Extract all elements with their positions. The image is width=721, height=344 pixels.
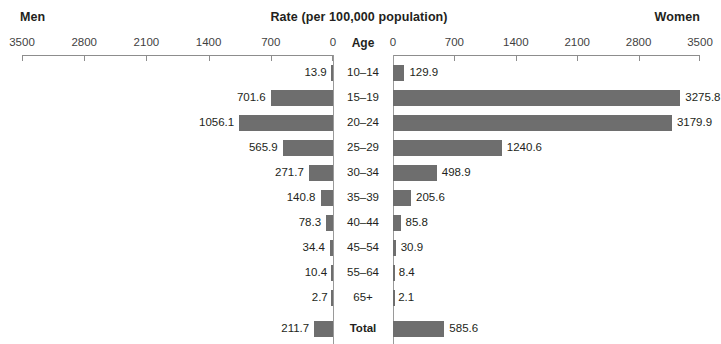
- chart-row-total: 211.7Total585.6: [0, 317, 718, 344]
- right-tick-700: 700: [445, 36, 464, 48]
- age-group-label: 65+: [336, 289, 390, 305]
- bar-men: [283, 140, 333, 156]
- chart-row: 34.445–5430.9: [0, 236, 718, 261]
- chart-row: 2.765+2.1: [0, 286, 718, 311]
- age-group-label: 25–29: [336, 139, 390, 155]
- value-label-men: 701.6: [237, 89, 266, 105]
- chart-row: 701.615–193275.8: [0, 86, 718, 111]
- value-label-women: 3179.9: [677, 114, 712, 130]
- value-label-men: 565.9: [249, 139, 278, 155]
- value-label-men: 1056.1: [199, 114, 234, 130]
- bar-women: [393, 115, 672, 131]
- bar-women: [393, 165, 437, 181]
- value-label-women: 3275.8: [685, 89, 720, 105]
- bar-women: [393, 265, 395, 281]
- value-label-women: 8.4: [399, 264, 415, 280]
- chart-row: 140.835–39205.6: [0, 186, 718, 211]
- value-label-women: 205.6: [416, 189, 445, 205]
- bar-women: [393, 321, 444, 337]
- bar-men: [330, 240, 333, 256]
- bar-men: [239, 115, 333, 131]
- value-label-women: 1240.6: [507, 139, 542, 155]
- value-label-women: 585.6: [449, 320, 478, 336]
- value-label-men: 140.8: [287, 189, 316, 205]
- bar-men: [331, 265, 333, 281]
- value-label-women: 2.1: [398, 289, 414, 305]
- age-group-label: 40–44: [336, 214, 390, 230]
- bar-women: [393, 240, 396, 256]
- value-label-men: 13.9: [304, 64, 326, 80]
- value-label-men: 78.3: [299, 214, 321, 230]
- chart-row: 10.455–648.4: [0, 261, 718, 286]
- value-label-women: 129.9: [409, 64, 438, 80]
- age-group-label: 35–39: [336, 189, 390, 205]
- value-label-women: 498.9: [442, 164, 471, 180]
- value-label-women: 85.8: [406, 214, 428, 230]
- bar-women: [393, 140, 502, 156]
- chart-row: 13.910–14129.9: [0, 61, 718, 86]
- right-tick-3500: 3500: [687, 36, 713, 48]
- chart-row: 78.340–4485.8: [0, 211, 718, 236]
- right-tick-2100: 2100: [564, 36, 590, 48]
- bar-men: [321, 190, 334, 206]
- chart-row: 1056.120–243179.9: [0, 111, 718, 136]
- bar-women: [393, 290, 395, 306]
- bar-women: [393, 90, 680, 106]
- right-tick-1400: 1400: [503, 36, 529, 48]
- right-tick-0: 0: [390, 36, 396, 48]
- value-label-men: 2.7: [312, 289, 328, 305]
- age-group-label: 10–14: [336, 64, 390, 80]
- chart-row: 271.730–34498.9: [0, 161, 718, 186]
- bar-men: [331, 290, 333, 306]
- value-label-women: 30.9: [401, 239, 423, 255]
- chart-title: Rate (per 100,000 population): [0, 10, 718, 24]
- age-group-label: 55–64: [336, 264, 390, 280]
- age-column-header: Age: [336, 36, 390, 50]
- age-group-label: 15–19: [336, 89, 390, 105]
- bar-men: [314, 321, 333, 337]
- value-label-men: 34.4: [303, 239, 325, 255]
- bar-women: [393, 190, 411, 206]
- bar-women: [393, 65, 404, 81]
- bar-men: [271, 90, 333, 106]
- value-label-men: 10.4: [305, 264, 327, 280]
- bar-women: [393, 215, 401, 231]
- bar-men: [331, 65, 333, 81]
- bar-men: [326, 215, 333, 231]
- age-group-label: 30–34: [336, 164, 390, 180]
- value-label-men: 211.7: [281, 320, 309, 336]
- age-group-label: 20–24: [336, 114, 390, 130]
- right-tick-2800: 2800: [626, 36, 652, 48]
- chart-row: 565.925–291240.6: [0, 136, 718, 161]
- women-header-label: Women: [655, 10, 700, 24]
- bar-men: [309, 165, 333, 181]
- age-group-label: 45–54: [336, 239, 390, 255]
- value-label-men: 271.7: [275, 164, 304, 180]
- age-group-label: Total: [336, 320, 390, 336]
